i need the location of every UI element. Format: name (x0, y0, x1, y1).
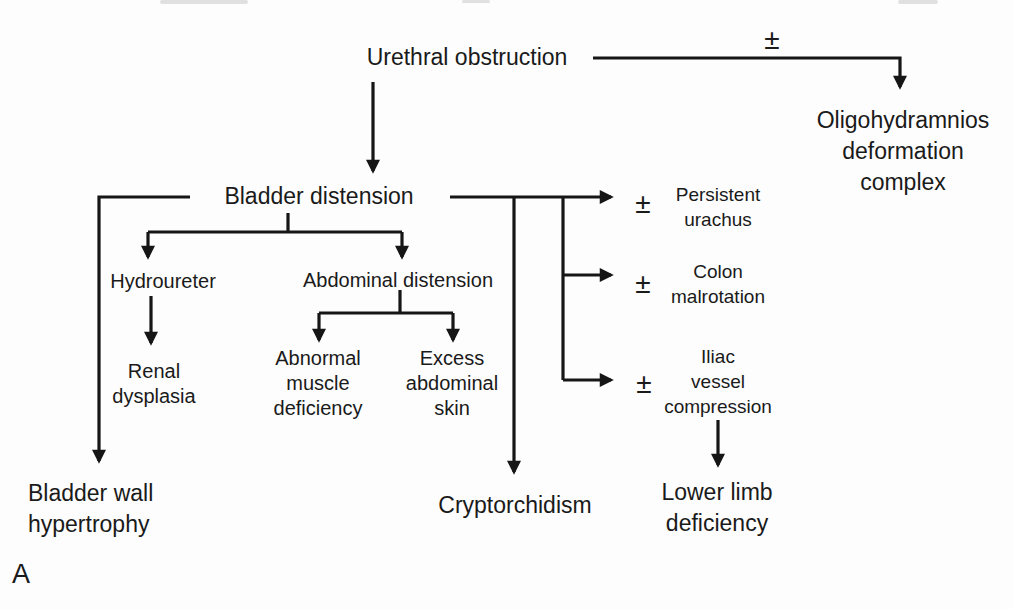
node-label-line: abdominal (406, 371, 498, 396)
node-label-line: vessel (664, 369, 772, 394)
node-label-line: dysplasia (112, 384, 195, 409)
plus-minus-symbol: ± (636, 370, 651, 398)
node-label-line: Bladder wall (28, 478, 153, 509)
scan-artifact (462, 0, 490, 3)
node-label-line: Oligohydramnios (817, 105, 990, 136)
node-hydroureter: Hydroureter (110, 269, 216, 294)
node-cryptorchidism: Cryptorchidism (438, 490, 591, 521)
node-label-line: urachus (676, 207, 760, 232)
node-abnormal-muscle-deficiency: Abnormal muscle deficiency (274, 346, 363, 421)
node-label-line: muscle (274, 371, 363, 396)
node-abdominal-distension: Abdominal distension (303, 268, 493, 293)
node-excess-abdominal-skin: Excess abdominal skin (406, 346, 498, 421)
node-label-line: Abnormal (274, 346, 363, 371)
scan-artifact (160, 0, 248, 4)
node-label-line: Iliac (664, 344, 772, 369)
node-iliac-vessel-compression: Iliac vessel compression (664, 344, 772, 419)
node-label-line: complex (817, 167, 990, 198)
figure-panel-label: A (12, 559, 30, 590)
node-label-line: Excess (406, 346, 498, 371)
node-urethral-obstruction: Urethral obstruction (367, 42, 568, 73)
node-label-line: malrotation (671, 284, 765, 309)
plus-minus-symbol: ± (764, 26, 779, 54)
node-label-line: hypertrophy (28, 509, 153, 540)
node-label-line: compression (664, 394, 772, 419)
scan-artifact (898, 0, 938, 4)
node-bladder-wall-hypertrophy: Bladder wall hypertrophy (28, 478, 153, 540)
node-colon-malrotation: Colon malrotation (671, 259, 765, 309)
node-oligohydramnios-deformation-complex: Oligohydramnios deformation complex (817, 105, 990, 198)
node-persistent-urachus: Persistent urachus (676, 182, 760, 232)
node-label-line: deformation (817, 136, 990, 167)
plus-minus-symbol: ± (635, 270, 650, 298)
plus-minus-symbol: ± (635, 190, 650, 218)
node-label-line: Lower limb (661, 477, 772, 508)
node-label-line: skin (406, 396, 498, 421)
node-label-line: deficiency (661, 508, 772, 539)
node-bladder-distension: Bladder distension (224, 181, 413, 212)
node-label-line: Renal (112, 359, 195, 384)
node-renal-dysplasia: Renal dysplasia (112, 359, 195, 409)
flowchart-urethral-obstruction-sequence: Urethral obstruction ± Oligohydramnios d… (0, 0, 1013, 609)
node-label-line: deficiency (274, 396, 363, 421)
node-label-line: Persistent (676, 182, 760, 207)
node-label-line: Colon (671, 259, 765, 284)
node-lower-limb-deficiency: Lower limb deficiency (661, 477, 772, 539)
